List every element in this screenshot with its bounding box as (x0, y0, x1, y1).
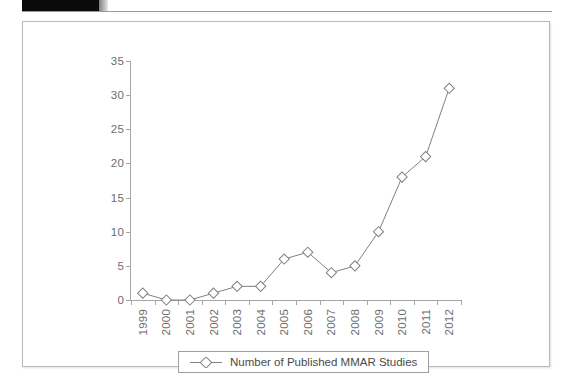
category-axis-tick-label: 2008 (349, 309, 361, 335)
category-axis-tick-label: 2010 (396, 309, 408, 335)
category-axis-tick-label: 2009 (373, 309, 385, 335)
series-data-point (161, 295, 171, 305)
value-axis-tick-label: 10 (111, 226, 124, 238)
category-axis-tick-label: 2005 (278, 309, 290, 335)
series-data-point (185, 295, 195, 305)
series-data-point (138, 288, 148, 298)
category-axis-tick-label: 2011 (420, 309, 432, 335)
category-axis-tick-label: 2001 (184, 309, 196, 335)
category-axis-tick-label: 2012 (443, 309, 455, 335)
series-line (143, 88, 449, 300)
category-axis-tick-label: 2000 (160, 309, 172, 335)
series-data-point (373, 227, 383, 237)
chart-plot-inner: 05101520253035 1999200020012002200320042… (131, 61, 461, 300)
redaction-fade-edge (99, 0, 108, 11)
page-header-band (0, 0, 573, 18)
value-axis-tick-label: 5 (117, 260, 124, 272)
series-data-point (208, 288, 218, 298)
category-axis-tick (461, 300, 462, 305)
series-data-point (350, 261, 360, 271)
value-axis-tick-label: 0 (117, 294, 124, 306)
diamond-marker-icon (190, 357, 222, 368)
category-axis-tick-label: 1999 (137, 309, 149, 335)
series-data-point (232, 281, 242, 291)
category-axis-tick-label: 2006 (302, 309, 314, 335)
category-axis-tick-label: 2007 (325, 309, 337, 335)
value-axis-tick-label: 20 (111, 157, 124, 169)
figure-frame: 05101520253035 1999200020012002200320042… (22, 21, 550, 367)
redaction-block (22, 0, 99, 11)
legend-label: Number of Published MMAR Studies (230, 356, 417, 368)
value-axis-tick-label: 30 (111, 89, 124, 101)
category-axis-tick-label: 2004 (255, 309, 267, 335)
header-divider (22, 11, 552, 12)
chart-legend: Number of Published MMAR Studies (178, 351, 429, 373)
value-axis-tick-label: 25 (111, 123, 124, 135)
chart-plot-area: 05101520253035 1999200020012002200320042… (131, 61, 461, 300)
value-axis-tick-label: 35 (111, 55, 124, 67)
category-axis-tick-label: 2002 (208, 309, 220, 335)
series-graphic (131, 61, 461, 301)
series-data-point (444, 83, 454, 93)
value-axis-tick-label: 15 (111, 192, 124, 204)
category-axis-tick-label: 2003 (231, 309, 243, 335)
